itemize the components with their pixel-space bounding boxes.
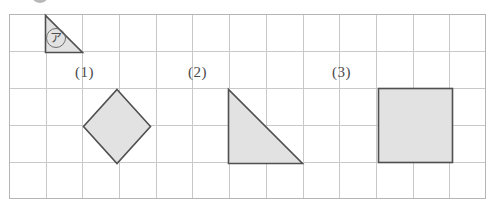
worksheet-figure: ア (1) (2) (3) <box>0 0 496 213</box>
grid-lines <box>9 14 486 199</box>
page-cut-mark <box>33 0 47 3</box>
shape-1-label: (1) <box>75 64 94 81</box>
shape-2-label: (2) <box>188 64 207 81</box>
shape-3-label: (3) <box>332 64 351 81</box>
grid-area <box>9 14 486 199</box>
reference-marker-kana: ア <box>46 28 66 48</box>
